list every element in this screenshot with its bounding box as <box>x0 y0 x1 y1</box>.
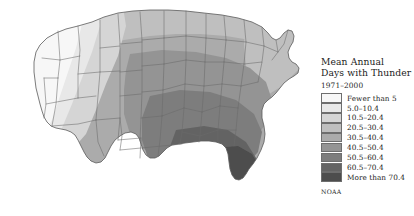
legend-label: 50.5–60.4 <box>347 153 384 162</box>
legend-label: 10.5–20.4 <box>347 113 384 122</box>
legend-swatch <box>321 133 342 143</box>
us-choropleth-map <box>0 0 316 216</box>
legend-label: More than 70.4 <box>347 173 405 182</box>
legend-swatch <box>321 93 342 103</box>
legend-swatch <box>321 123 342 133</box>
legend-swatch <box>321 172 342 182</box>
legend-title-line2: Days with Thunder <box>321 68 414 79</box>
legend-row: 20.5–30.4 <box>321 123 414 133</box>
legend-row: More than 70.4 <box>321 172 414 182</box>
map-svg <box>0 0 316 216</box>
legend-label: Fewer than 5 <box>347 94 397 103</box>
legend-label: 30.5–40.4 <box>347 133 384 142</box>
legend-entry-list: Fewer than 55.0–10.410.5–20.420.5–30.430… <box>321 93 414 182</box>
legend-swatch <box>321 163 342 173</box>
legend-row: 5.0–10.4 <box>321 103 414 113</box>
map-color-bands <box>0 0 316 216</box>
map-legend: Mean Annual Days with Thunder 1971–2000 … <box>321 57 414 195</box>
legend-label: 60.5–70.4 <box>347 163 384 172</box>
legend-row: 40.5–50.4 <box>321 143 414 153</box>
legend-label: 20.5–30.4 <box>347 123 384 132</box>
thunder-days-figure: Mean Annual Days with Thunder 1971–2000 … <box>0 0 414 216</box>
legend-row: Fewer than 5 <box>321 93 414 103</box>
legend-row: 50.5–60.4 <box>321 153 414 163</box>
legend-subtitle: 1971–2000 <box>321 81 414 90</box>
legend-swatch <box>321 143 342 153</box>
legend-source-label: NOAA <box>321 188 414 195</box>
legend-title-line1: Mean Annual <box>321 57 414 68</box>
legend-row: 10.5–20.4 <box>321 113 414 123</box>
legend-swatch <box>321 113 342 123</box>
legend-row: 60.5–70.4 <box>321 162 414 172</box>
legend-label: 5.0–10.4 <box>347 104 379 113</box>
legend-row: 30.5–40.4 <box>321 133 414 143</box>
legend-swatch <box>321 153 342 163</box>
legend-swatch <box>321 103 342 113</box>
legend-label: 40.5–50.4 <box>347 143 384 152</box>
